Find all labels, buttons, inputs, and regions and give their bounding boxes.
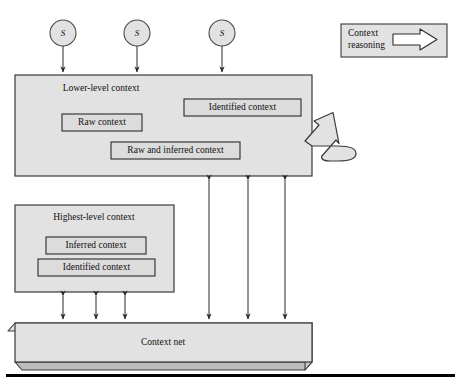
inferred-context-label: Inferred context: [66, 240, 127, 250]
context-net-title: Context net: [141, 337, 185, 347]
raw-context-label: Raw context: [78, 117, 126, 127]
highest-level-context-title: Highest-level context: [53, 212, 135, 222]
identified-context-label-lower: Identified context: [63, 262, 131, 272]
raw-context-box: Raw context: [62, 114, 142, 131]
figure-canvas: Lower-level context Raw context Identifi…: [0, 0, 461, 388]
source-node-1: S: [50, 20, 76, 72]
raw-and-inferred-context-label: Raw and inferred context: [127, 145, 224, 155]
highest-level-context-box: Highest-level context Inferred context I…: [15, 205, 174, 292]
context-net-box: Context net: [8, 323, 312, 370]
legend-line-1: Context: [348, 28, 378, 38]
raw-and-inferred-context-box: Raw and inferred context: [111, 142, 240, 159]
identified-context-box-upper: Identified context: [184, 99, 301, 116]
source-node-3: S: [209, 20, 235, 72]
context-reasoning-loop-arrow: [305, 113, 356, 162]
legend-line-2: reasoning: [348, 40, 385, 50]
identified-context-label-upper: Identified context: [209, 102, 277, 112]
highest-level-to-context-net-arrows: [63, 296, 125, 319]
lower-level-context-box: Lower-level context: [15, 75, 312, 176]
identified-context-box-lower: Identified context: [38, 259, 155, 276]
source-node-3-label: S: [220, 28, 225, 38]
lower-level-context-title: Lower-level context: [63, 83, 140, 93]
source-node-2-label: S: [135, 28, 140, 38]
lower-level-to-context-net-arrows: [209, 180, 285, 319]
diagram-svg: Lower-level context Raw context Identifi…: [0, 0, 461, 388]
inferred-context-box: Inferred context: [46, 237, 146, 254]
context-reasoning-legend: Context reasoning: [341, 24, 447, 57]
source-node-2: S: [124, 20, 150, 72]
source-node-1-label: S: [61, 28, 66, 38]
context-net-bottom-face: [15, 362, 312, 370]
source-nodes: S S S: [50, 20, 235, 72]
